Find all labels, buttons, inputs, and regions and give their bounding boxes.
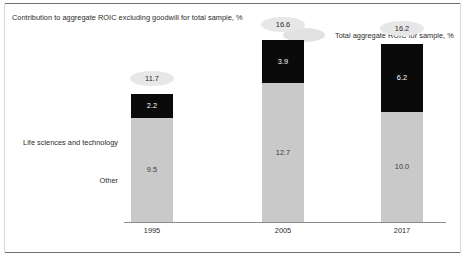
chart-canvas: Contribution to aggregate ROIC excluding…	[0, 0, 465, 256]
total-bubble-2005: 16.6	[261, 17, 305, 32]
x-axis-line	[124, 222, 446, 223]
segment-value-life-sciences-2017: 6.2	[397, 74, 407, 81]
bar-segment-other-2005[interactable]: 12.7	[262, 83, 304, 222]
total-bubble-1995: 11.7	[130, 71, 174, 86]
bar-segment-other-1995[interactable]: 9.5	[131, 118, 173, 222]
category-label-zone-top: Life sciences and technology	[0, 138, 118, 147]
category-label-zone-bottom: Other	[0, 176, 118, 185]
total-bubble-2017: 16.2	[380, 21, 424, 36]
total-value-1995: 11.7	[145, 75, 159, 82]
segment-value-other-2005: 12.7	[276, 149, 290, 156]
total-value-2017: 16.2	[395, 25, 409, 32]
bar-group-2017[interactable]: 16.2 6.2 10.0	[381, 44, 423, 222]
bar-segment-life-sciences-2005[interactable]: 3.9	[262, 40, 304, 83]
x-axis-tick-2017: 2017	[381, 226, 423, 235]
category-label-life-sciences: Life sciences and technology	[0, 138, 118, 147]
total-value-2005: 16.6	[276, 21, 290, 28]
bar-segment-life-sciences-1995[interactable]: 2.2	[131, 94, 173, 118]
stacked-bar-2005[interactable]: 3.9 12.7	[262, 40, 304, 222]
category-label-other: Other	[0, 176, 118, 185]
plot-area: Life sciences and technology Other 11.7 …	[0, 0, 465, 256]
stacked-bar-2017[interactable]: 6.2 10.0	[381, 44, 423, 222]
x-axis-tick-2005: 2005	[262, 226, 304, 235]
segment-value-life-sciences-2005: 3.9	[278, 58, 288, 65]
segment-value-other-1995: 9.5	[147, 166, 157, 173]
bar-segment-life-sciences-2017[interactable]: 6.2	[381, 44, 423, 112]
stacked-bar-1995[interactable]: 2.2 9.5	[131, 94, 173, 222]
segment-value-other-2017: 10.0	[395, 163, 409, 170]
x-axis-tick-1995: 1995	[131, 226, 173, 235]
bar-group-1995[interactable]: 11.7 2.2 9.5	[131, 94, 173, 222]
segment-value-life-sciences-1995: 2.2	[147, 102, 157, 109]
bar-segment-other-2017[interactable]: 10.0	[381, 112, 423, 222]
bar-group-2005[interactable]: 16.6 3.9 12.7	[262, 40, 304, 222]
